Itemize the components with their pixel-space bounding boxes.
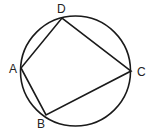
point-label-a: A: [9, 62, 17, 76]
point-label-d: D: [57, 2, 66, 16]
point-label-b: B: [37, 117, 45, 131]
point-label-c: C: [137, 65, 146, 79]
cyclic-quadrilateral-diagram: A B C D: [0, 0, 150, 134]
circumcircle: [21, 16, 131, 126]
